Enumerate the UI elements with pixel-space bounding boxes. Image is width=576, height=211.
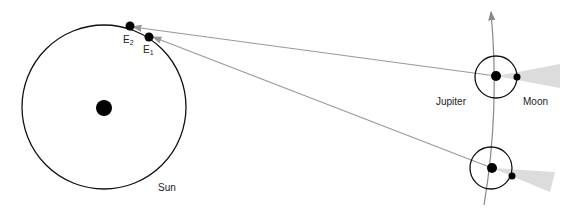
- label-e2-base: E: [123, 34, 130, 45]
- jupiter-shadow-top: [496, 64, 560, 88]
- sun-dot: [96, 100, 112, 116]
- jupiter-bottom: [487, 163, 497, 173]
- label-jupiter: Jupiter: [436, 97, 466, 107]
- diagram-canvas: E2 E1 Sun Jupiter Moon: [0, 0, 576, 211]
- diagram-svg: [0, 0, 576, 211]
- jupiter-orbit-path: [484, 12, 494, 205]
- jupiter-top: [491, 71, 501, 81]
- earth-e1: [145, 33, 154, 42]
- label-e2: E2: [123, 35, 134, 46]
- moon-bottom: [509, 173, 516, 180]
- label-e1-base: E: [143, 44, 150, 55]
- label-e2-sub: 2: [130, 39, 134, 46]
- label-e1-sub: 1: [150, 49, 154, 56]
- earth-e2: [126, 22, 135, 31]
- label-e1: E1: [143, 45, 154, 56]
- label-moon: Moon: [523, 97, 548, 107]
- jupiter-shadow-bottom: [492, 168, 555, 192]
- moon-top: [514, 74, 521, 81]
- label-sun: Sun: [158, 183, 176, 193]
- sight-line-e2: [133, 27, 496, 76]
